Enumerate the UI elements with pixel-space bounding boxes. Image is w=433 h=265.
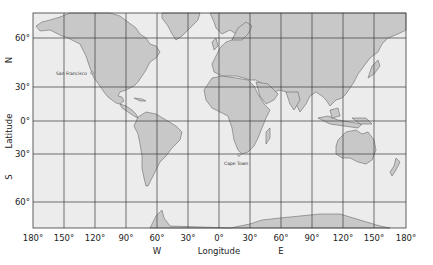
y-tick-0: 0° [20,116,30,126]
x-tick-0: 0° [214,233,224,243]
city-marker-icon [238,154,240,156]
y-tick-30s: 30° [15,149,30,159]
x-tick-120e: 120° [333,233,353,243]
x-tick-30w: 30° [180,233,195,243]
x-axis-title: Longitude [198,246,240,256]
y-tick-30n: 30° [15,82,30,92]
x-tick-60e: 60° [273,233,288,243]
city-label-san-francisco: San Francisco [56,71,87,76]
city-label-cape-town: Cape Town [224,161,248,166]
x-tick-90w: 90° [118,233,133,243]
x-tick-180e: 180° [396,233,416,243]
city-marker-icon [91,72,93,74]
x-axis-west-label: W [153,246,161,256]
x-tick-180w: 180° [23,233,43,243]
x-tick-150e: 150° [364,233,384,243]
x-axis-east-label: E [278,246,283,256]
x-tick-120w: 120° [85,233,105,243]
x-tick-30e: 30° [242,233,257,243]
world-map: San Francisco Cape Town [0,0,433,265]
x-tick-150w: 150° [54,233,74,243]
x-tick-90e: 90° [304,233,319,243]
y-tick-60s: 60° [15,197,30,207]
y-axis-title: Latitude [4,114,14,149]
y-axis-south-label: S [4,174,14,179]
x-tick-60w: 60° [149,233,164,243]
y-axis-north-label: N [4,57,14,63]
y-tick-60n: 60° [15,33,30,43]
borneo [330,108,340,118]
